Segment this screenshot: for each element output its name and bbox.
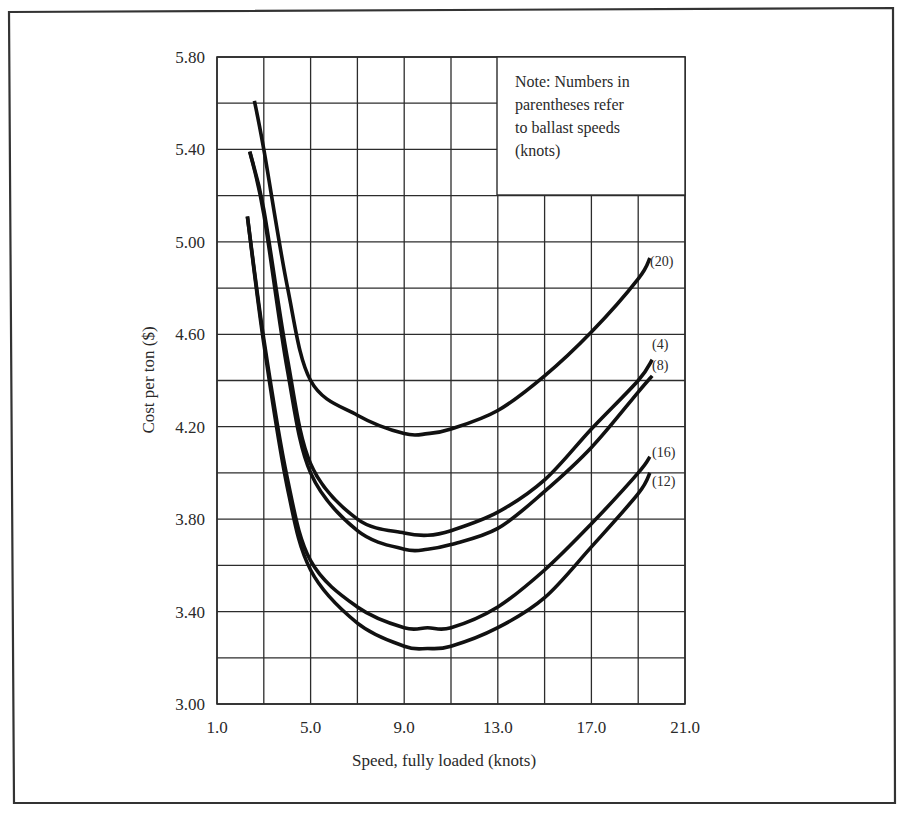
y-tick-label: 3.40 bbox=[175, 603, 205, 622]
y-axis-title: Cost per ton ($) bbox=[139, 326, 158, 433]
y-tick-label: 3.80 bbox=[175, 510, 205, 529]
note-box: Note: Numbers inparentheses referto ball… bbox=[497, 57, 685, 195]
y-tick-label: 4.20 bbox=[175, 418, 205, 437]
y-tick-label: 5.40 bbox=[175, 140, 205, 159]
y-tick-label: 5.80 bbox=[175, 48, 205, 67]
series-label: (8) bbox=[652, 358, 669, 374]
x-axis-title: Speed, fully loaded (knots) bbox=[352, 751, 536, 770]
chart-figure: Note: Numbers inparentheses referto ball… bbox=[0, 0, 903, 816]
series-label: (4) bbox=[652, 337, 669, 353]
x-tick-label: 17.0 bbox=[577, 718, 607, 737]
y-tick-label: 3.00 bbox=[175, 695, 205, 714]
note-line: (knots) bbox=[515, 142, 560, 160]
series-label: (16) bbox=[652, 445, 676, 461]
y-tick-label: 5.00 bbox=[175, 233, 205, 252]
x-tick-label: 1.0 bbox=[206, 718, 227, 737]
note-line: Note: Numbers in bbox=[515, 73, 630, 90]
note-line: parentheses refer bbox=[515, 96, 624, 114]
series-label: (12) bbox=[652, 474, 676, 490]
x-tick-label: 13.0 bbox=[483, 718, 513, 737]
x-tick-label: 5.0 bbox=[300, 718, 321, 737]
y-tick-label: 4.60 bbox=[175, 325, 205, 344]
series-label: (20) bbox=[650, 254, 674, 270]
x-tick-label: 9.0 bbox=[394, 718, 415, 737]
x-tick-label: 21.0 bbox=[670, 718, 700, 737]
note-line: to ballast speeds bbox=[515, 119, 620, 137]
